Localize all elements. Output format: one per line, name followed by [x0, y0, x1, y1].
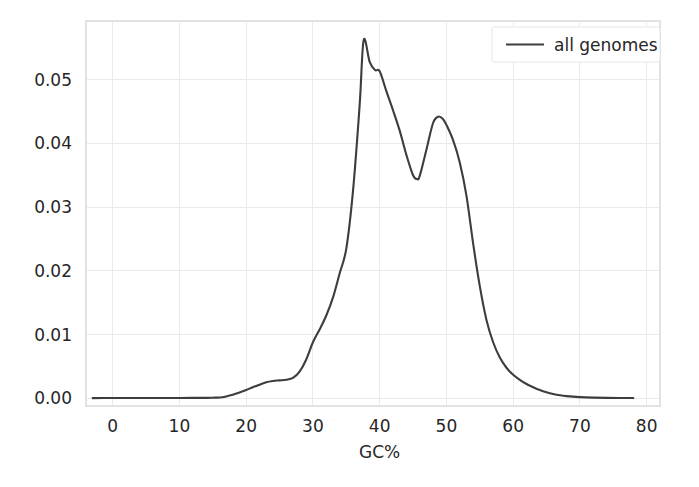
- gc-content-density-plot: 01020304050607080 0.000.010.020.030.040.…: [0, 0, 699, 487]
- y-tick-label: 0.03: [34, 197, 72, 217]
- x-tick-label: 10: [169, 416, 191, 436]
- x-axis-tick-labels: 01020304050607080: [107, 416, 657, 436]
- y-tick-label: 0.05: [34, 70, 72, 90]
- x-tick-label: 60: [502, 416, 524, 436]
- x-tick-label: 70: [569, 416, 591, 436]
- axes-frame: [86, 21, 660, 406]
- y-tick-label: 0.04: [34, 133, 72, 153]
- x-tick-label: 40: [369, 416, 391, 436]
- y-axis-tick-labels: 0.000.010.020.030.040.05: [34, 70, 72, 409]
- x-tick-label: 80: [636, 416, 658, 436]
- x-tick-label: 50: [436, 416, 458, 436]
- legend[interactable]: all genomes: [492, 27, 660, 62]
- x-tick-label: 20: [235, 416, 257, 436]
- y-tick-label: 0.02: [34, 261, 72, 281]
- data-series-layer: [93, 39, 634, 398]
- y-tick-label: 0.00: [34, 388, 72, 408]
- y-tick-label: 0.01: [34, 325, 72, 345]
- x-tick-label: 0: [107, 416, 118, 436]
- figure-canvas: 01020304050607080 0.000.010.020.030.040.…: [0, 0, 699, 487]
- data-line-all-genomes: [93, 39, 634, 398]
- grid-layer: [86, 21, 660, 406]
- legend-label: all genomes: [554, 35, 658, 55]
- x-axis-title: GC%: [359, 442, 400, 462]
- plot-frame: [86, 21, 660, 406]
- x-tick-label: 30: [302, 416, 324, 436]
